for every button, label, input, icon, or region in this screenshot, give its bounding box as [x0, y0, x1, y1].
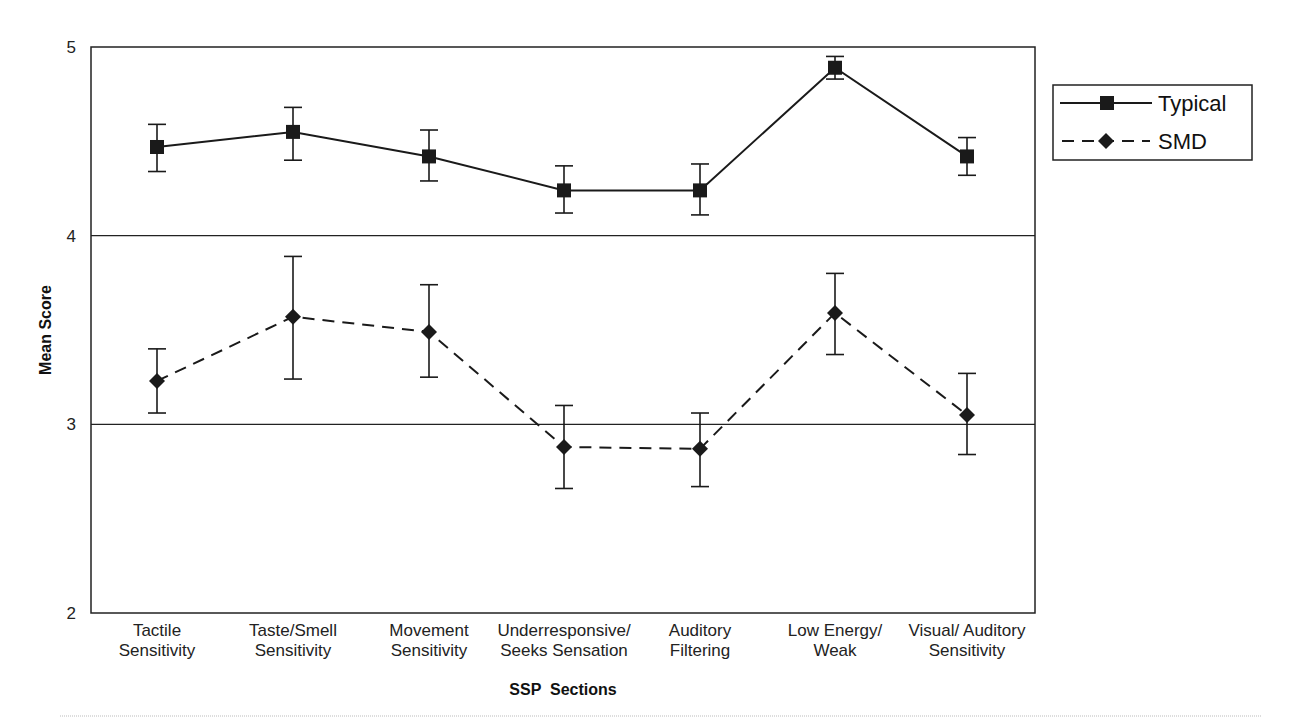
diamond-marker-icon: [556, 439, 572, 455]
x-category-label: AuditoryFiltering: [669, 621, 732, 660]
series-typical: [148, 56, 976, 214]
x-category-label: Underresponsive/Seeks Sensation: [497, 621, 631, 660]
x-category-label: Visual/ AuditorySensitivity: [909, 621, 1026, 660]
legend-label-typical: Typical: [1158, 91, 1226, 116]
legend-label-smd: SMD: [1158, 129, 1207, 154]
x-axis-categories: TactileSensitivityTaste/SmellSensitivity…: [119, 621, 1026, 660]
series-layer: [148, 56, 976, 488]
square-marker-icon: [557, 183, 571, 197]
x-category-label: Low Energy/Weak: [788, 621, 883, 660]
y-tick-label: 5: [67, 38, 76, 57]
series-smd: [148, 256, 976, 488]
square-marker-icon: [286, 125, 300, 139]
square-marker-icon: [1100, 96, 1114, 110]
legend: Typical SMD: [1053, 85, 1252, 160]
series-line: [157, 68, 967, 191]
diamond-marker-icon: [149, 373, 165, 389]
diamond-marker-icon: [959, 407, 975, 423]
y-axis-ticks: 2345: [67, 38, 76, 623]
x-category-label: MovementSensitivity: [389, 621, 469, 660]
square-marker-icon: [693, 183, 707, 197]
diamond-marker-icon: [285, 309, 301, 325]
y-tick-label: 2: [67, 604, 76, 623]
y-axis-title: Mean Score: [37, 285, 54, 375]
square-marker-icon: [422, 149, 436, 163]
series-line: [157, 313, 967, 449]
gridlines: [91, 236, 1035, 425]
y-tick-label: 3: [67, 415, 76, 434]
square-marker-icon: [828, 61, 842, 75]
plot-area-frame: [91, 47, 1035, 613]
line-chart: 2345 TactileSensitivityTaste/SmellSensit…: [0, 0, 1292, 728]
x-category-label: TactileSensitivity: [119, 621, 196, 660]
square-marker-icon: [150, 140, 164, 154]
square-marker-icon: [960, 149, 974, 163]
x-axis-title: SSP Sections: [509, 681, 616, 698]
x-category-label: Taste/SmellSensitivity: [249, 621, 337, 660]
diamond-marker-icon: [421, 324, 437, 340]
y-tick-label: 4: [67, 227, 76, 246]
